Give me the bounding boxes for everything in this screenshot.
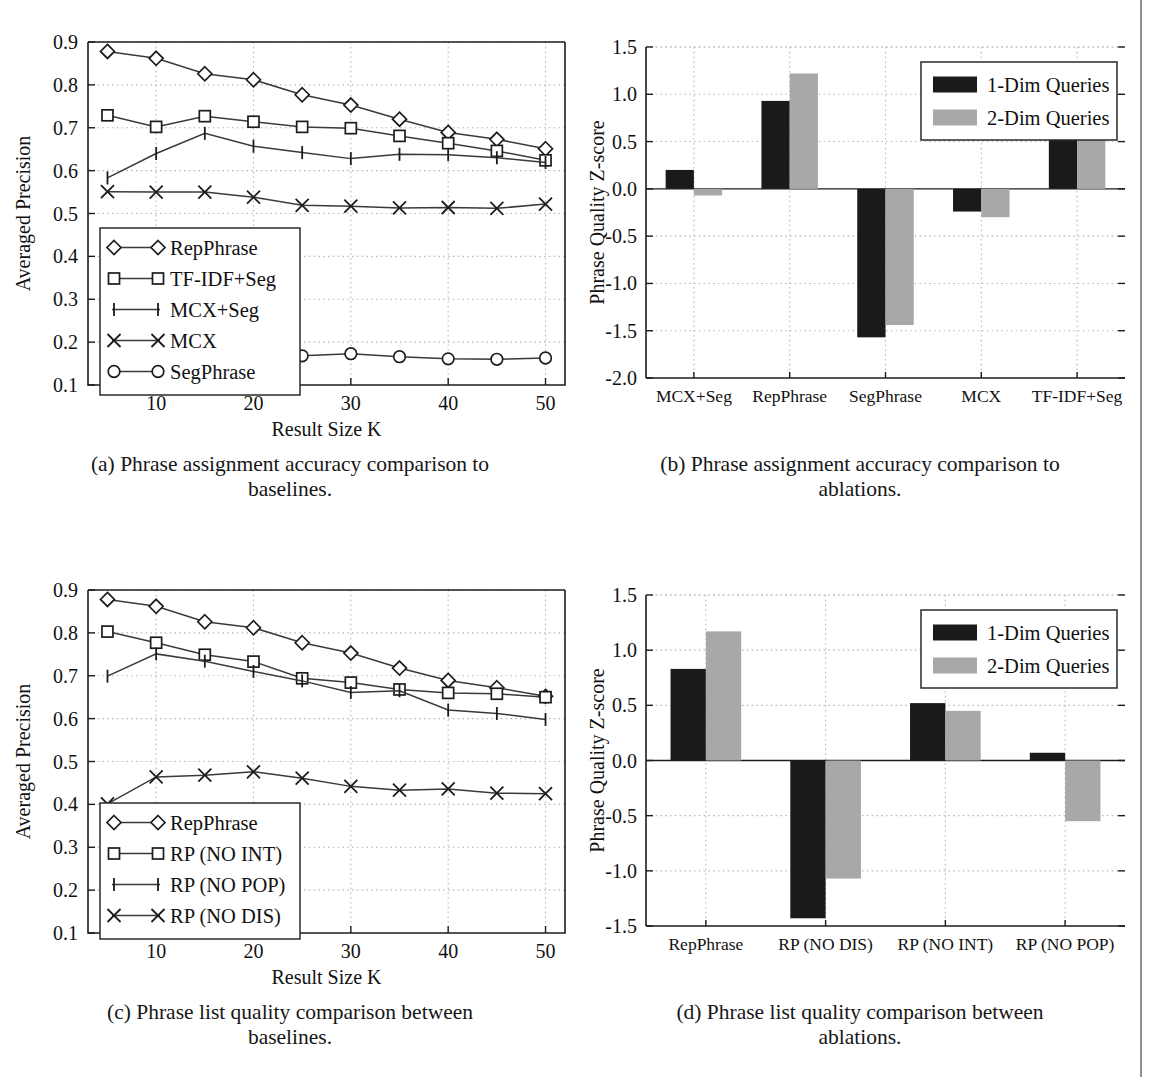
marker-square bbox=[394, 130, 405, 141]
y-tick-label: 0.4 bbox=[53, 245, 78, 267]
series-polyline bbox=[107, 115, 545, 160]
marker-diamond bbox=[295, 88, 309, 102]
data-series bbox=[107, 647, 545, 726]
marker-diamond bbox=[246, 73, 260, 87]
bar bbox=[910, 703, 945, 760]
caption-c-line-1: (c) Phrase list quality comparison betwe… bbox=[0, 1000, 580, 1025]
marker-circle bbox=[394, 351, 406, 363]
marker-diamond bbox=[100, 44, 114, 58]
legend-label: RepPhrase bbox=[170, 237, 258, 260]
legend-swatch bbox=[933, 77, 977, 93]
legend-label: MCX bbox=[170, 330, 217, 352]
marker-diamond bbox=[393, 661, 407, 675]
y-tick-label: 0.4 bbox=[53, 793, 78, 815]
marker-circle bbox=[152, 366, 164, 378]
bar bbox=[1065, 761, 1100, 822]
marker-square bbox=[540, 692, 551, 703]
marker-square bbox=[102, 110, 113, 121]
y-tick-label: 0.5 bbox=[612, 694, 637, 716]
y-axis-title: Averaged Precision bbox=[12, 684, 35, 840]
bar bbox=[790, 73, 818, 188]
panel-a: 0.10.20.30.40.50.60.70.80.91020304050Res… bbox=[0, 0, 580, 538]
marker-diamond bbox=[198, 67, 212, 81]
bar bbox=[886, 189, 914, 325]
y-tick-label: 1.5 bbox=[612, 584, 637, 606]
series-polyline bbox=[107, 599, 545, 696]
marker-diamond bbox=[393, 112, 407, 126]
marker-square bbox=[153, 273, 164, 284]
legend-label: 1-Dim Queries bbox=[987, 74, 1109, 96]
y-tick-label: -1.5 bbox=[605, 320, 637, 342]
bar bbox=[694, 189, 722, 196]
category-label: RP (NO POP) bbox=[1016, 934, 1115, 954]
legend-label: MCX+Seg bbox=[170, 299, 259, 322]
caption-c: (c) Phrase list quality comparison betwe… bbox=[0, 1000, 580, 1051]
caption-d-line-2: ablations. bbox=[580, 1025, 1140, 1050]
page-edge-rule bbox=[1140, 0, 1142, 1077]
marker-square bbox=[297, 121, 308, 132]
caption-b-line-2: ablations. bbox=[580, 477, 1140, 502]
x-axis-title: Result Size K bbox=[272, 966, 383, 988]
y-tick-label: -2.0 bbox=[605, 367, 637, 389]
category-label: SegPhrase bbox=[849, 386, 922, 406]
marker-square bbox=[153, 848, 164, 859]
marker-square bbox=[443, 138, 454, 149]
legend: 1-Dim Queries2-Dim Queries bbox=[921, 62, 1117, 140]
category-labels: MCX+SegRepPhraseSegPhraseMCXTF-IDF+Seg bbox=[656, 372, 1123, 406]
marker-diamond bbox=[344, 98, 358, 112]
y-tick-label: 0.5 bbox=[612, 131, 637, 153]
marker-diamond bbox=[100, 592, 114, 606]
y-tick-label: 0.0 bbox=[612, 178, 637, 200]
panel-b: -2.0-1.5-1.0-0.50.00.51.01.5MCX+SegRepPh… bbox=[580, 0, 1140, 538]
marker-diamond bbox=[490, 132, 504, 146]
bar bbox=[953, 189, 981, 212]
bar bbox=[761, 101, 789, 189]
marker-square bbox=[151, 637, 162, 648]
x-axis-title: Result Size K bbox=[272, 418, 383, 440]
y-axis-title: Phrase Quality Z-score bbox=[586, 120, 609, 305]
y-tick-label: 0.3 bbox=[53, 288, 78, 310]
series-polyline bbox=[107, 654, 545, 720]
marker-circle bbox=[540, 352, 552, 364]
y-axis-title: Averaged Precision bbox=[12, 136, 35, 292]
bar bbox=[981, 189, 1009, 217]
caption-b-line-1: (b) Phrase assignment accuracy compariso… bbox=[580, 452, 1140, 477]
caption-b: (b) Phrase assignment accuracy compariso… bbox=[580, 452, 1140, 503]
marker-circle bbox=[491, 353, 503, 365]
bar bbox=[790, 761, 825, 919]
panel-d: -1.5-1.0-0.50.00.51.01.5RepPhraseRP (NO … bbox=[580, 538, 1140, 1076]
caption-a: (a) Phrase assignment accuracy compariso… bbox=[0, 452, 580, 503]
y-tick-label: 0.5 bbox=[53, 751, 78, 773]
category-label: TF-IDF+Seg bbox=[1032, 386, 1123, 406]
bar bbox=[1030, 753, 1065, 761]
category-label: MCX bbox=[961, 386, 1001, 406]
marker-diamond bbox=[149, 51, 163, 65]
legend-label: 2-Dim Queries bbox=[987, 107, 1109, 129]
x-tick-label: 40 bbox=[438, 940, 458, 962]
legend-swatch bbox=[933, 625, 977, 641]
marker-diamond bbox=[295, 636, 309, 650]
marker-circle bbox=[108, 366, 120, 378]
y-tick-label: 0.1 bbox=[53, 374, 78, 396]
figure-grid: 0.10.20.30.40.50.60.70.80.91020304050Res… bbox=[0, 0, 1140, 1077]
caption-a-line-2: baselines. bbox=[0, 477, 580, 502]
legend-swatch bbox=[933, 658, 977, 674]
marker-square bbox=[109, 273, 120, 284]
marker-square bbox=[248, 116, 259, 127]
x-tick-label: 20 bbox=[243, 940, 263, 962]
marker-square bbox=[345, 123, 356, 134]
marker-circle bbox=[442, 353, 454, 365]
y-tick-label: 0.6 bbox=[53, 708, 78, 730]
category-label: RepPhrase bbox=[752, 386, 827, 406]
marker-diamond bbox=[149, 599, 163, 613]
legend-label: SegPhrase bbox=[170, 361, 255, 384]
x-tick-label: 30 bbox=[341, 392, 361, 414]
y-tick-label: 0.2 bbox=[53, 879, 78, 901]
legend: 1-Dim Queries2-Dim Queries bbox=[921, 610, 1117, 688]
bar bbox=[945, 711, 980, 761]
caption-d: (d) Phrase list quality comparison betwe… bbox=[580, 1000, 1140, 1051]
bar bbox=[706, 631, 741, 760]
x-tick-label: 40 bbox=[438, 392, 458, 414]
legend: RepPhraseRP (NO INT)RP (NO POP)RP (NO DI… bbox=[100, 803, 300, 939]
caption-c-line-2: baselines. bbox=[0, 1025, 580, 1050]
